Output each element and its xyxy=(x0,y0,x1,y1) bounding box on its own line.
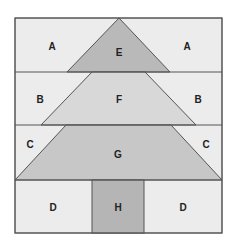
label-h: H xyxy=(114,202,121,213)
label-g: G xyxy=(114,149,122,160)
label-c-right: C xyxy=(202,139,209,150)
label-a-left: A xyxy=(48,41,55,52)
label-b-right: B xyxy=(194,94,201,105)
label-f: F xyxy=(116,94,122,105)
label-a-right: A xyxy=(183,41,190,52)
label-e: E xyxy=(116,47,123,58)
label-d-right: D xyxy=(179,202,186,213)
label-b-left: B xyxy=(36,94,43,105)
label-d-left: D xyxy=(49,202,56,213)
tree-block-diagram: A E A B F B C G C D H D xyxy=(0,0,234,247)
label-c-left: C xyxy=(26,139,33,150)
